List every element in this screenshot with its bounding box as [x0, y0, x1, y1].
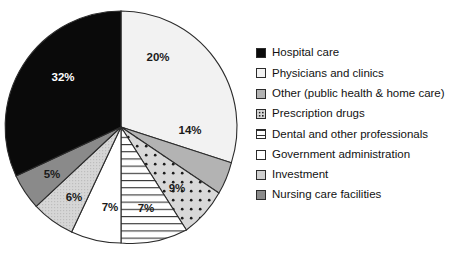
- legend-item-other-public-health-home-care[interactable]: Other (public health & home care): [256, 84, 459, 104]
- legend-label-dental-and-other-professionals: Dental and other professionals: [272, 129, 428, 141]
- slice-value-label-government: 7%: [102, 201, 119, 213]
- slice-value-label-other: 14%: [178, 124, 201, 136]
- legend-item-nursing-care-facilities[interactable]: Nursing care facilities: [256, 185, 459, 205]
- legend-swatch-icon-hospital-care: [256, 48, 266, 58]
- legend-label-hospital-care: Hospital care: [272, 47, 339, 59]
- legend-label-nursing-care-facilities: Nursing care facilities: [272, 189, 381, 201]
- legend-item-hospital-care[interactable]: Hospital care: [256, 43, 459, 63]
- slice-value-label-nursing: 5%: [44, 168, 61, 180]
- legend-item-dental-and-other-professionals[interactable]: Dental and other professionals: [256, 124, 459, 144]
- legend-label-government-administration: Government administration: [272, 149, 410, 161]
- legend-label-investment: Investment: [272, 169, 328, 181]
- legend-label-prescription-drugs: Prescription drugs: [272, 108, 365, 120]
- legend-item-prescription-drugs[interactable]: Prescription drugs: [256, 104, 459, 124]
- pie-svg: 20% 14% 9% 7% 7% 6% 5% 32%: [0, 0, 248, 259]
- legend-label-other-public-health-home-care: Other (public health & home care): [272, 88, 445, 100]
- legend-swatch-icon-nursing-care-facilities: [256, 190, 266, 200]
- legend-label-physicians-and-clinics: Physicians and clinics: [272, 68, 384, 80]
- legend-swatch-icon-government-administration: [256, 150, 266, 160]
- slice-value-label-dental: 7%: [138, 202, 155, 214]
- legend-item-investment[interactable]: Investment: [256, 165, 459, 185]
- pie-plot-area: 20% 14% 9% 7% 7% 6% 5% 32%: [0, 0, 248, 259]
- legend-swatch-icon-other-public-health-home-care: [256, 89, 266, 99]
- legend-swatch-icon-physicians-and-clinics: [256, 68, 266, 78]
- chart-legend: Hospital care Physicians and clinics Oth…: [256, 43, 459, 205]
- slice-value-label-physicians: 20%: [146, 51, 169, 63]
- slice-value-label-hospital-care: 32%: [51, 71, 74, 83]
- legend-swatch-icon-investment: [256, 170, 266, 180]
- legend-item-government-administration[interactable]: Government administration: [256, 144, 459, 164]
- legend-swatch-icon-prescription-drugs: [256, 109, 266, 119]
- slice-value-label-investment: 6%: [66, 191, 83, 203]
- slice-value-label-prescription-drugs: 9%: [169, 182, 186, 194]
- legend-swatch-icon-dental-and-other-professionals: [256, 129, 266, 139]
- pie-chart-figure: 20% 14% 9% 7% 7% 6% 5% 32% Hospital care…: [0, 0, 459, 259]
- legend-item-physicians-and-clinics[interactable]: Physicians and clinics: [256, 63, 459, 83]
